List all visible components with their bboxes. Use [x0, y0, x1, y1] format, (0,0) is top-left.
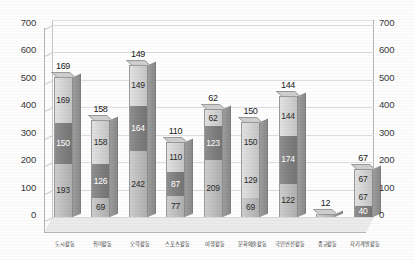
segment-bottom-bar-9: 40 — [354, 206, 373, 217]
bar-side-face — [260, 118, 268, 217]
segment-bottom-bar-1: 193 — [54, 164, 73, 217]
bar-7[interactable]: 144174122 — [279, 96, 298, 217]
segment-value-label: 122 — [281, 196, 294, 205]
segment-top-bar-3: 149 — [129, 65, 148, 106]
y-axis-left-line — [44, 28, 45, 233]
segment-value-label: 77 — [171, 202, 180, 211]
y-tick-label-left-500: 500 — [8, 72, 36, 83]
segment-bottom-bar-4: 77 — [166, 196, 185, 217]
segment-value-label: 129 — [244, 176, 257, 185]
segment-top-bar-5: 62 — [204, 109, 223, 126]
y-tick-label-right-600: 600 — [379, 44, 409, 55]
segment-middle-bar-5: 123 — [204, 126, 223, 160]
bar-3[interactable]: 149164242 — [129, 65, 148, 217]
bar-8[interactable] — [316, 214, 335, 217]
bar-total-label-2: 158 — [93, 104, 107, 114]
segment-value-label: 150 — [56, 139, 69, 148]
bar-total-label-5: 62 — [208, 93, 217, 103]
bar-total-label-9: 67 — [358, 153, 367, 163]
gridline — [52, 217, 374, 218]
bar-side-face — [110, 117, 118, 217]
segment-value-label: 87 — [171, 180, 180, 189]
segment-value-label: 69 — [246, 203, 255, 212]
y-tick-label-right-300: 300 — [379, 127, 409, 138]
segment-middle-bar-3: 164 — [129, 106, 148, 151]
y-tick-label-left-700: 700 — [8, 17, 36, 28]
bar-5[interactable]: 62123209 — [204, 109, 223, 217]
segment-value-label: 174 — [281, 155, 294, 164]
segment-middle-bar-4: 87 — [166, 172, 185, 196]
segment-value-label: 126 — [94, 177, 107, 186]
segment-bottom-bar-3: 242 — [129, 151, 148, 217]
segment-value-label: 40 — [359, 207, 368, 216]
bar-6[interactable]: 15012969 — [241, 122, 260, 217]
segment-bottom-bar-7: 122 — [279, 184, 298, 217]
segment-top-bar-1: 169 — [54, 77, 73, 123]
segment-middle-bar-6: 129 — [241, 163, 260, 198]
stacked-bar-chart: 1691501931691581266915814916424214911087… — [0, 0, 414, 260]
y-tick-label-right-200: 200 — [379, 154, 409, 165]
y-tick-label-left-200: 200 — [8, 154, 36, 165]
bar-side-face — [148, 61, 156, 217]
segment-value-label: 150 — [244, 138, 257, 147]
bar-side-face — [185, 138, 193, 217]
bar-total-label-1: 169 — [56, 61, 70, 71]
bar-1[interactable]: 169150193 — [54, 77, 73, 217]
x-axis-label-6: 문화예술활동 — [238, 240, 267, 247]
bar-side-face — [73, 73, 81, 217]
segment-top-bar-6: 150 — [241, 122, 260, 163]
x-axis-label-7: 국민안전활동 — [275, 240, 304, 247]
y-tick-label-right-100: 100 — [379, 182, 409, 193]
plot-floor — [44, 217, 374, 233]
segment-top-bar-9: 67 — [354, 169, 373, 187]
bar-2[interactable]: 15812669 — [91, 120, 110, 217]
segment-top-bar-7: 144 — [279, 96, 298, 135]
plot-area: 1691501931691581266915814916424214911087… — [44, 20, 374, 233]
x-axis-label-9: 자기계발활동 — [350, 240, 379, 247]
segment-bottom-bar-6: 69 — [241, 198, 260, 217]
bar-9[interactable]: 676740 — [354, 169, 373, 217]
y-tick-label-left-400: 400 — [8, 99, 36, 110]
segment-bottom-bar-5: 209 — [204, 160, 223, 217]
gridline — [52, 80, 374, 81]
segment-bottom-bar-2: 69 — [91, 198, 110, 217]
x-axis-label-2: 취미활동 — [93, 240, 113, 247]
x-axis-label-8: 종교활동 — [318, 240, 338, 247]
bar-total-label-8: 12 — [321, 198, 330, 208]
y-tick-label-left-300: 300 — [8, 127, 36, 138]
y-tick-label-right-500: 500 — [379, 72, 409, 83]
y-tick-label-left-0: 0 — [8, 209, 36, 220]
bar-total-label-6: 150 — [243, 106, 257, 116]
x-axis-label-1: 도시활동 — [55, 240, 75, 247]
segment-value-label: 62 — [209, 114, 218, 123]
x-axis-label-4: 스포츠활동 — [165, 240, 190, 247]
segment-value-label: 242 — [131, 180, 144, 189]
segment-value-label: 164 — [131, 124, 144, 133]
bar-total-label-4: 110 — [169, 126, 182, 136]
y-tick-label-right-400: 400 — [379, 99, 409, 110]
segment-value-label: 69 — [96, 203, 105, 212]
bar-total-label-3: 149 — [131, 49, 145, 59]
segment-value-label: 67 — [359, 175, 368, 184]
segment-top-bar-4: 110 — [166, 142, 185, 172]
bar-total-label-7: 144 — [281, 80, 295, 90]
segment-top-bar-2: 158 — [91, 120, 110, 163]
bar-side-face — [298, 93, 306, 217]
x-axis-label-5: 여행활동 — [205, 240, 225, 247]
y-tick-label-right-700: 700 — [379, 17, 409, 28]
bar-side-face — [223, 105, 231, 217]
y-tick-label-left-600: 600 — [8, 44, 36, 55]
segment-value-label: 209 — [206, 184, 219, 193]
gridline — [52, 25, 374, 26]
segment-value-label: 158 — [94, 138, 107, 147]
segment-middle-bar-7: 174 — [279, 136, 298, 184]
segment-value-label: 110 — [169, 153, 182, 162]
segment-middle-bar-2: 126 — [91, 164, 110, 199]
segment-value-label: 193 — [56, 186, 69, 195]
x-axis-label-3: 오락활동 — [130, 240, 150, 247]
segment-middle-bar-1: 150 — [54, 123, 73, 164]
segment-value-label: 67 — [359, 193, 368, 202]
plot-floor-edge — [44, 232, 366, 233]
bar-4[interactable]: 1108777 — [166, 142, 185, 217]
y-tick-label-right-0: 0 — [379, 209, 409, 220]
